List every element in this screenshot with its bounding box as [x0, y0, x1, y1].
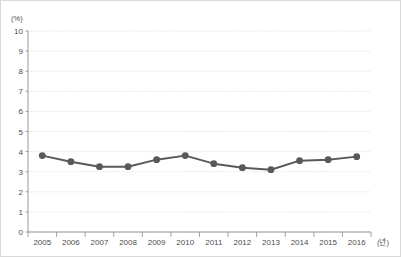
y-tick-label: 6: [19, 107, 24, 116]
data-point-marker: [39, 152, 46, 159]
y-tick-label: 9: [19, 47, 24, 56]
x-tick-labels: 2005200620072008200920102011201220132014…: [33, 238, 366, 247]
data-point-marker: [182, 152, 189, 159]
y-tick-label: 7: [19, 87, 24, 96]
data-point-marker: [210, 160, 217, 167]
y-tick-label: 1: [19, 208, 24, 217]
gridlines: [28, 31, 371, 232]
x-tick-label: 2014: [291, 238, 309, 247]
x-axis-unit-label: (년): [377, 237, 389, 247]
data-point-marker: [239, 164, 246, 171]
x-tick-label: 2007: [91, 238, 109, 247]
y-tick-label: 10: [14, 27, 23, 36]
y-tick-label: 0: [19, 228, 24, 237]
x-tick-label: 2015: [319, 238, 337, 247]
y-tick-label: 3: [19, 168, 24, 177]
x-tick-label: 2013: [262, 238, 280, 247]
x-tick-label: 2009: [148, 238, 166, 247]
x-tick-label: 2005: [33, 238, 51, 247]
x-tick-label: 2011: [205, 238, 223, 247]
series-markers: [39, 152, 360, 173]
chart-canvas: 012345678910 200520062007200820092010201…: [1, 1, 401, 257]
y-axis-unit-label: (%): [11, 14, 23, 23]
data-point-marker: [67, 158, 74, 165]
x-tick-label: 2006: [62, 238, 80, 247]
y-tick-labels: 012345678910: [14, 27, 28, 237]
series-line-path: [42, 156, 356, 170]
x-tick-label: 2010: [176, 238, 194, 247]
x-tick-label: 2012: [233, 238, 251, 247]
line-chart-figure: 012345678910 200520062007200820092010201…: [0, 0, 401, 257]
y-tick-label: 5: [19, 128, 24, 137]
data-point-marker: [296, 157, 303, 164]
data-point-marker: [268, 166, 275, 173]
x-tick-marks: [28, 232, 371, 237]
x-tick-label: 2016: [348, 238, 366, 247]
x-tick-label: 2008: [119, 238, 137, 247]
data-point-marker: [353, 153, 360, 160]
y-tick-label: 4: [19, 148, 24, 157]
data-point-marker: [125, 163, 132, 170]
data-point-marker: [96, 163, 103, 170]
y-tick-label: 8: [19, 67, 24, 76]
data-point-marker: [153, 156, 160, 163]
data-point-marker: [325, 156, 332, 163]
y-tick-label: 2: [19, 188, 24, 197]
